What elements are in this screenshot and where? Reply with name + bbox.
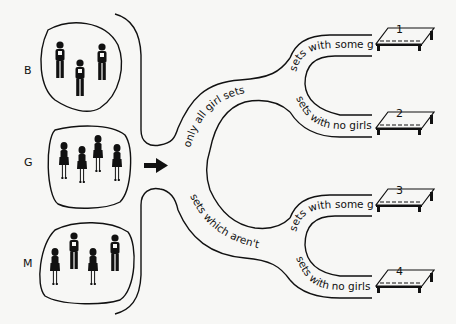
boy-figure-icon [56, 41, 65, 78]
boy-figure-icon [111, 234, 120, 271]
girl-figure-icon [77, 146, 87, 183]
boy-figure-icon [76, 59, 85, 96]
girl-figure-icon [88, 248, 98, 285]
svg-text:3: 3 [396, 184, 403, 197]
table-3-icon: 3 [376, 184, 434, 212]
table-2-icon: 2 [376, 107, 434, 135]
boy-figure-icon [98, 43, 107, 80]
group-label-b: B [24, 64, 32, 77]
bracket-top [115, 14, 178, 145]
sorting-diagram: only all girl sets sets which aren't all… [0, 0, 456, 324]
table-4-icon: 4 [376, 265, 434, 293]
branch-all-girl-inner [210, 101, 290, 150]
group-g-blob [48, 126, 130, 208]
svg-text:2: 2 [396, 107, 403, 120]
svg-text:4: 4 [396, 265, 403, 278]
svg-text:1: 1 [396, 23, 403, 36]
boy-figure-icon [70, 232, 79, 269]
arrow-right-icon [144, 158, 168, 173]
branch-label-4: sets with no girls [294, 254, 370, 292]
table-1-icon: 1 [376, 23, 434, 51]
group-b-blob [41, 23, 121, 111]
girl-figure-icon [50, 248, 60, 285]
branch-label-not-all-girl: sets which aren't all girls [0, 0, 261, 250]
girl-figure-icon [93, 135, 103, 172]
girl-figure-icon [59, 142, 69, 179]
group-m-blob [40, 223, 134, 304]
girl-figure-icon [112, 144, 122, 181]
group-label-g: G [24, 156, 33, 169]
group-label-m: M [23, 257, 33, 270]
